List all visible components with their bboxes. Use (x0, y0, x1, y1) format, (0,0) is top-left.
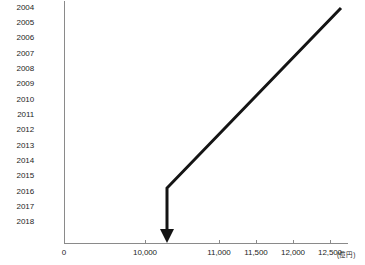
bar-value-label: 11,813 (253, 64, 276, 73)
x-axis-tick (256, 240, 257, 243)
y-axis-category-label: 2011 (0, 110, 34, 119)
x-axis-tick-label: 10,000 (133, 248, 157, 257)
bar-value-label: 12,317 (290, 18, 314, 27)
y-axis-category-label: 2006 (0, 33, 34, 42)
bar-value-label: 11,528 (232, 110, 255, 119)
y-axis-category-label: 2017 (0, 202, 34, 211)
bar-value-label: 11,366 (220, 126, 243, 135)
y-axis-category-label: 2008 (0, 64, 34, 73)
x-axis-tick (293, 240, 294, 243)
bar-value-label: 12,415 (297, 3, 321, 12)
y-axis-category-label: 2009 (0, 79, 34, 88)
x-axis-line (64, 243, 348, 244)
y-axis-line (64, 1, 65, 243)
bar-row: 11,813 (64, 63, 279, 74)
y-axis-category-label: 2012 (0, 125, 34, 134)
bar-value-label: 10,945 (188, 172, 212, 181)
bar-value-label: 10,971 (190, 218, 214, 227)
bar-row: 12,415 (64, 2, 324, 13)
bar-row: 10,971 (64, 217, 217, 228)
y-axis-category-label: 2010 (0, 95, 34, 104)
x-axis-tick (145, 240, 146, 243)
bar-row: 11,528 (64, 109, 258, 120)
x-axis-tick (219, 240, 220, 243)
y-axis-category-label: 2007 (0, 49, 34, 58)
bar-row: 11,123 (64, 156, 228, 167)
bar-row: 12,214 (64, 33, 309, 44)
y-axis-category-label: 2014 (0, 156, 34, 165)
x-axis-tick-label: 0 (62, 248, 66, 257)
x-axis-tick-label: 11,000 (207, 248, 230, 257)
x-axis-tick (330, 240, 331, 243)
bar-row: 10,971 (64, 202, 217, 213)
bar-row: 11,366 (64, 125, 246, 136)
bar-row: 10,945 (64, 171, 215, 182)
y-axis-category-label: 2005 (0, 18, 34, 27)
bar-value-label: 12,043 (269, 49, 293, 58)
bar-value-label: 11,123 (202, 157, 225, 166)
bar-value-label: 10,945 (188, 187, 212, 196)
bar-row: 12,043 (64, 48, 296, 59)
y-axis-category-label: 2015 (0, 171, 34, 180)
bar-row: 11,695 (64, 79, 270, 90)
y-axis-category-label: 2004 (0, 3, 34, 12)
x-axis-tick-label: 11,500 (244, 248, 267, 257)
bar-row: 10,792 (64, 140, 204, 151)
y-axis-category-label: 2018 (0, 217, 34, 226)
bar-value-label: 11,585 (236, 95, 259, 104)
bar-value-label: 12,214 (282, 34, 306, 43)
x-axis-unit-label: (億円) (337, 249, 355, 259)
bar-row: 11,585 (64, 94, 262, 105)
y-axis-category-label: 2013 (0, 141, 34, 150)
bar-value-label: 11,695 (244, 80, 267, 89)
bar-chart: 200412,415200512,317200612,214200712,043… (0, 0, 365, 265)
x-axis-tick-label: 12,000 (281, 248, 305, 257)
y-axis-category-label: 2016 (0, 187, 34, 196)
bar-row: 12,317 (64, 17, 316, 28)
bar-value-label: 10,971 (190, 203, 214, 212)
bar-value-label: 10,792 (177, 141, 201, 150)
bar-row: 10,945 (64, 186, 215, 197)
